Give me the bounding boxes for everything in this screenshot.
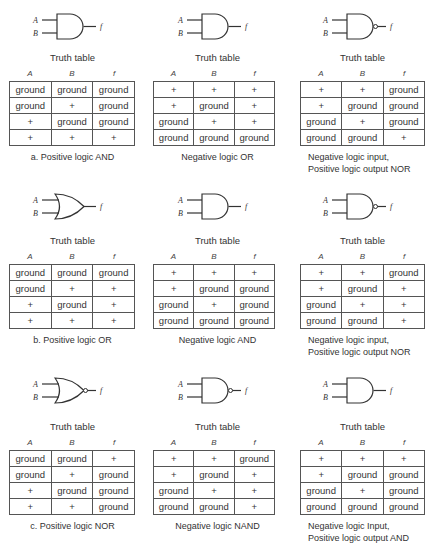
table-cell: ground (51, 82, 93, 98)
column-header: A (300, 69, 342, 78)
truth-table: groundground+ground+ground+groundground+… (9, 450, 135, 515)
gate-panel: A B f Truth tableABf++ground+ground+grou… (290, 180, 435, 360)
table-cell: ground (10, 265, 52, 281)
table-row: groundgroundground (154, 313, 275, 329)
table-row: +groundground (301, 98, 425, 114)
table-row: +++ (10, 130, 135, 146)
truth-table-header: ABf (153, 69, 275, 78)
svg-text:A: A (32, 196, 38, 205)
table-row: groundground+ (10, 451, 135, 467)
table-cell: + (93, 313, 135, 329)
caption-line: Negative logic input, (308, 151, 436, 163)
figure-caption: b. Positive logic OR (0, 334, 145, 346)
table-cell: + (234, 483, 274, 499)
svg-text:f: f (245, 22, 249, 31)
table-cell: ground (51, 451, 93, 467)
column-header: B (51, 69, 93, 78)
table-cell: + (301, 281, 342, 297)
column-header: B (342, 438, 384, 447)
figure-caption: Negative logic AND (145, 334, 290, 346)
svg-text:f: f (100, 202, 104, 211)
table-row: ground++ (301, 297, 425, 313)
table-row: ground+ground (154, 297, 275, 313)
table-cell: ground (342, 499, 383, 515)
table-cell: ground (342, 281, 383, 297)
svg-text:A: A (322, 16, 328, 25)
table-row: groundgroundground (10, 265, 135, 281)
column-header: B (194, 252, 235, 261)
column-header: A (9, 438, 51, 447)
table-cell: + (51, 130, 93, 146)
column-header: A (153, 438, 194, 447)
table-cell: ground (383, 265, 424, 281)
table-cell: + (301, 451, 342, 467)
table-cell: ground (194, 467, 234, 483)
table-cell: ground (342, 467, 383, 483)
gate-panel: A B f Truth tableABfgroundground+ground+… (0, 364, 145, 544)
svg-text:B: B (178, 209, 183, 218)
table-row: +++ (301, 451, 425, 467)
truth-table: ++++groundgroundground+groundgroundgroun… (153, 264, 275, 329)
table-cell: ground (194, 130, 234, 146)
gate-panel: A B f Truth tableABf++ground+groundgroun… (290, 0, 435, 180)
column-header: f (234, 252, 275, 261)
table-cell: + (10, 114, 52, 130)
truth-table: groundgroundgroundground+ground+groundgr… (9, 81, 135, 146)
svg-text:B: B (178, 393, 183, 402)
table-cell: + (342, 82, 383, 98)
table-cell: ground (154, 297, 194, 313)
column-header: B (194, 69, 235, 78)
figure-caption: c. Positive logic NOR (0, 520, 145, 532)
table-row: +ground+ (154, 467, 275, 483)
svg-text:A: A (322, 380, 328, 389)
table-cell: ground (51, 483, 93, 499)
table-row: groundground+ (301, 313, 425, 329)
table-cell: ground (301, 313, 342, 329)
column-header: f (93, 69, 135, 78)
truth-table: ++++ground+ground++groundgroundground (153, 81, 275, 146)
table-cell: ground (154, 114, 194, 130)
table-cell: ground (10, 82, 52, 98)
table-row: groundgroundground (10, 82, 135, 98)
column-header: f (234, 438, 275, 447)
table-cell: ground (51, 114, 93, 130)
gate-panel: A B f Truth tableABf++++groundgroundgrou… (145, 180, 290, 360)
column-header: B (194, 438, 235, 447)
table-cell: ground (342, 313, 383, 329)
truth-table: ++ground+groundgroundground+groundground… (300, 81, 425, 146)
table-cell: ground (383, 467, 424, 483)
table-cell: ground (93, 82, 135, 98)
and-gate-icon: A B f (145, 0, 290, 50)
table-cell: + (93, 451, 135, 467)
svg-text:f: f (245, 386, 249, 395)
table-cell: ground (383, 114, 424, 130)
truth-table-header: ABf (300, 69, 425, 78)
svg-text:A: A (177, 380, 183, 389)
caption-line: Negative logic input, (308, 334, 436, 346)
table-cell: ground (154, 130, 194, 146)
table-cell: ground (301, 483, 342, 499)
truth-table-header: ABf (9, 69, 135, 78)
table-cell: + (154, 451, 194, 467)
table-cell: + (194, 483, 234, 499)
truth-table-title: Truth table (0, 421, 145, 432)
caption-line: Negative logic NAND (145, 520, 290, 532)
caption-line: Negative logic OR (145, 151, 290, 163)
svg-text:f: f (245, 202, 249, 211)
table-cell: ground (383, 483, 424, 499)
table-cell: + (93, 281, 135, 297)
truth-table-title: Truth table (145, 52, 290, 63)
column-header: A (9, 69, 51, 78)
figure-caption: Negative logic OR (145, 151, 290, 163)
table-cell: + (342, 483, 383, 499)
svg-text:A: A (177, 16, 183, 25)
table-cell: + (154, 281, 194, 297)
and-gate-icon: A B f (145, 180, 290, 230)
gate-panel: A B f Truth tableABfgroundgroundgroundgr… (0, 0, 145, 180)
table-cell: + (194, 451, 234, 467)
table-cell: + (342, 297, 383, 313)
nand-gate-icon: A B f (290, 0, 435, 50)
svg-text:B: B (323, 393, 328, 402)
table-cell: + (342, 451, 383, 467)
table-cell: ground (10, 281, 52, 297)
